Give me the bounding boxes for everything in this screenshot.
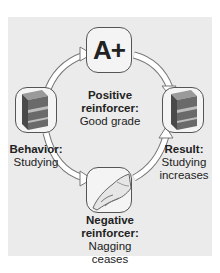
grade-a-plus-icon: A+: [87, 28, 131, 72]
book-icon: [163, 88, 203, 132]
behavior-label: Behavior: Studying: [2, 143, 70, 169]
negative-detail-line1: Nagging: [70, 240, 150, 253]
positive-reinforcer-tile: A+: [86, 27, 132, 73]
result-detail-line1: Studying: [150, 156, 218, 169]
behavior-tile: [15, 87, 57, 133]
book-icon: [16, 88, 56, 132]
result-tile: [162, 87, 204, 133]
result-detail-line2: increases: [150, 169, 218, 182]
result-heading: Result:: [150, 143, 218, 156]
pointing-hand-icon: [87, 168, 131, 212]
arrow-positive-to-result: [134, 55, 170, 88]
positive-heading-line2: reinforcer:: [74, 102, 146, 115]
negative-heading-line1: Negative: [70, 214, 150, 227]
positive-heading-line1: Positive: [74, 89, 146, 102]
result-label: Result: Studying increases: [150, 143, 218, 182]
negative-reinforcer-tile: [86, 167, 132, 213]
negative-detail-line2: ceases: [70, 253, 150, 266]
behavior-heading: Behavior:: [2, 143, 70, 156]
behavior-detail: Studying: [2, 156, 70, 169]
negative-heading-line2: reinforcer:: [70, 227, 150, 240]
positive-reinforcer-label: Positive reinforcer: Good grade: [74, 89, 146, 128]
negative-reinforcer-label: Negative reinforcer: Nagging ceases: [70, 214, 150, 266]
positive-detail: Good grade: [74, 115, 146, 128]
